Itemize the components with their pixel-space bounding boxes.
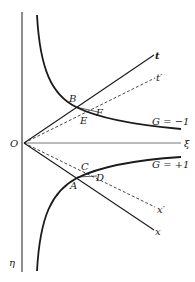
xi-label: ξ xyxy=(184,138,190,149)
point-e-label: E xyxy=(79,115,88,126)
point-b-label: B xyxy=(68,93,76,104)
x-label: x xyxy=(155,226,161,237)
origin-label: O xyxy=(10,138,18,149)
x-prime-axis-line xyxy=(24,143,155,207)
point-d-label: D xyxy=(95,172,104,183)
x-axis-line xyxy=(24,143,154,230)
t-prime-axis-line xyxy=(24,78,155,143)
g-minus-1-label: G = −1 xyxy=(152,116,189,127)
g-plus-1-label: G = +1 xyxy=(152,159,189,170)
point-c-label: C xyxy=(81,161,89,172)
x-prime-label: x′ xyxy=(157,204,166,215)
t-prime-label: t′ xyxy=(156,72,163,83)
point-f-label: F xyxy=(95,107,104,118)
t-label: t xyxy=(155,50,160,61)
eta-label: η xyxy=(9,257,15,268)
point-a-label: A xyxy=(69,180,77,191)
t-axis-line xyxy=(24,55,154,143)
hyperbola-diagram: O η ξ t t′ x x′ G = −1 G = +1 B E F C A … xyxy=(0,0,195,282)
